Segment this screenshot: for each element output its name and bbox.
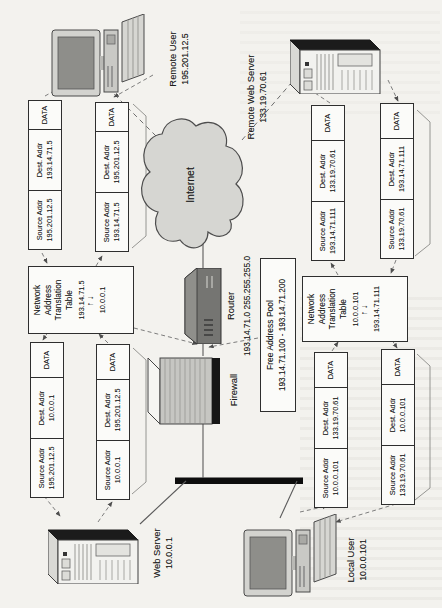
web-server-label: Web Server 10.0.0.1 <box>150 510 175 596</box>
nat-table-1: Network Address Translation Table 193.14… <box>28 266 134 334</box>
nat1-private-ip: 10.0.0.1 <box>98 267 107 333</box>
packet-source-header: Source Addr <box>389 455 398 496</box>
free-address-pool-title: Free Address Pool <box>264 259 277 411</box>
packet-dest-header: Dest. Addr <box>322 401 331 436</box>
packet-source-ip: 193.14.71.5 <box>113 202 122 241</box>
local-user-label: Local User 10.0.0.101 <box>344 514 369 606</box>
device-ip: 133.19.70.61 <box>257 30 269 164</box>
device-ip: 10.0.0.101 <box>357 514 369 606</box>
packet-table-reply-to-localuser-inside: Source Addr133.19.70.61 Dest. Addr10.0.0… <box>381 349 415 505</box>
packet-source-ip: 193.14.71.111 <box>329 208 338 254</box>
packet-dest-ip: 193.14.71.111 <box>398 146 407 192</box>
remote-user-label: Remote User 195.201.12.5 <box>166 4 191 114</box>
packet-source-header: Source Addr <box>103 202 112 243</box>
packet-table-reply-from-remote-server: Source Addr133.19.70.61 Dest. Addr193.14… <box>380 103 414 259</box>
packet-dest-header: Dest. Addr <box>38 391 47 426</box>
packet-dest-header: Dest. Addr <box>319 154 328 189</box>
packet-source-header: Source Addr <box>104 450 113 491</box>
free-address-pool-range: 193.14.71.100 - 193.14.71.200 <box>277 259 289 411</box>
nat-title-line: Table <box>64 267 75 333</box>
packet-dest-header: Dest. Addr <box>388 152 397 187</box>
nat-title-line: Network <box>306 277 317 341</box>
firewall-label: Firewall <box>227 352 240 428</box>
packet-dest-header: Dest. Addr <box>104 393 113 428</box>
packet-dest-ip: 195.201.12.5 <box>113 140 122 183</box>
nat-title-line: Network <box>32 267 43 333</box>
packet-source-header: Source Addr <box>319 211 328 252</box>
packet-dest-ip: 10.0.0.101 <box>399 398 408 433</box>
device-ip: 10.0.0.1 <box>163 510 175 596</box>
packet-dest-header: Dest. Addr <box>103 145 112 180</box>
packet-data-label: DATA <box>109 353 118 372</box>
packet-dest-ip: 195.201.12.5 <box>114 388 123 431</box>
bidirectional-arrows-icon: ↑↓ <box>86 267 95 333</box>
nat-title-line: Translation <box>327 277 338 341</box>
device-name: Local User <box>344 514 357 606</box>
packet-dest-ip: 133.19.70.61 <box>329 149 338 192</box>
router-icon <box>183 268 223 344</box>
packet-table-translated-outbound: Source Addr193.14.71.111 Dest. Addr133.1… <box>311 105 345 261</box>
packet-data-label: DATA <box>394 358 403 377</box>
nat-title-line: Address <box>43 267 54 333</box>
packet-source-ip: 10.0.0.1 <box>114 457 123 484</box>
packet-source-ip: 195.201.12.5 <box>48 446 57 489</box>
packet-dest-ip: 193.14.71.5 <box>46 140 55 179</box>
packet-dest-header: Dest. Addr <box>389 398 398 433</box>
nat-network-diagram: Internet Router 193.14.71.0 255.255.255.… <box>0 0 442 608</box>
remote-web-server-icon <box>290 34 386 94</box>
device-name: Web Server <box>150 510 163 596</box>
bidirectional-arrows-icon: ↑↓ <box>360 277 369 341</box>
packet-data-label: DATA <box>393 112 402 131</box>
packet-data-label: DATA <box>41 106 50 125</box>
nat-title-line: Address <box>317 277 328 341</box>
firewall-icon <box>146 354 224 426</box>
packet-source-ip: 133.19.70.61 <box>399 453 408 496</box>
packet-table-localuser-outbound-inside: Source Addr10.0.0.101 Dest. Addr133.19.7… <box>314 352 348 508</box>
internet-label: Internet <box>184 114 196 256</box>
router-address: 193.14.71.0 255.255.255.0 <box>241 244 253 368</box>
router-label: Router <box>224 262 237 350</box>
packet-source-header: Source Addr <box>388 209 397 250</box>
packet-table-webserver-reply-inside: Source Addr10.0.0.1 Dest. Addr195.201.12… <box>96 344 130 500</box>
free-address-pool-box: Free Address Pool 193.14.71.100 - 193.14… <box>260 258 296 412</box>
packet-dest-ip: 10.0.0.1 <box>48 395 57 422</box>
nat-title-line: Table <box>338 277 349 341</box>
device-name: Remote Web Server <box>244 30 257 164</box>
packet-data-label: DATA <box>327 361 336 380</box>
web-server-icon <box>48 524 144 584</box>
remote-user-computer-icon <box>50 14 150 100</box>
packet-table-public-to-remote: Source Addr193.14.71.5 Dest. Addr195.201… <box>95 102 129 252</box>
device-name: Remote User <box>166 4 179 114</box>
device-ip: 195.201.12.5 <box>179 4 191 114</box>
internet-cloud: Internet <box>132 114 254 256</box>
packet-source-ip: 195.201.12.5 <box>46 198 55 241</box>
local-user-computer-icon <box>242 514 342 600</box>
packet-source-header: Source Addr <box>322 458 331 499</box>
packet-table-remote-to-public: Source Addr195.201.12.5 Dest. Addr193.14… <box>28 100 62 250</box>
nat-title-line: Translation <box>53 267 64 333</box>
packet-data-label: DATA <box>324 114 333 133</box>
remote-web-server-label: Remote Web Server 133.19.70.61 <box>244 30 269 164</box>
packet-source-header: Source Addr <box>38 448 47 489</box>
lan-backbone <box>175 478 303 485</box>
packet-dest-header: Dest. Addr <box>36 143 45 178</box>
packet-data-label: DATA <box>108 108 117 127</box>
packet-source-header: Source Addr <box>36 200 45 241</box>
packet-source-ip: 10.0.0.101 <box>332 461 341 496</box>
nat2-public-ip: 193.14.71.111 <box>372 277 381 341</box>
nat-table-2: Network Address Translation Table 10.0.0… <box>302 276 408 342</box>
packet-data-label: DATA <box>43 351 52 370</box>
scanned-page: Internet Router 193.14.71.0 255.255.255.… <box>0 0 442 608</box>
packet-source-ip: 133.19.70.61 <box>398 207 407 250</box>
packet-dest-ip: 133.19.70.61 <box>332 396 341 439</box>
packet-table-remote-to-webserver-inside: Source Addr195.201.12.5 Dest. Addr10.0.0… <box>30 342 64 498</box>
